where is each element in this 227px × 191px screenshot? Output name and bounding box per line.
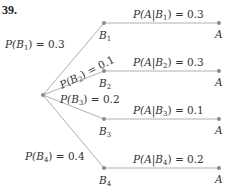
label-b3: B3 [98, 125, 111, 139]
node-b3 [102, 117, 106, 121]
node-a1 [217, 21, 221, 25]
label-b2: B2 [98, 77, 111, 91]
node-a2 [217, 69, 221, 73]
node-a3 [217, 117, 221, 121]
prior-b3: P(B3) = 0.2 [59, 93, 120, 107]
node-b1 [102, 21, 106, 25]
label-b1: B1 [98, 29, 111, 43]
label-a1: A [214, 28, 223, 40]
tree-diagram: 39. B1 B2 B3 B4 A A A A P(B1) = 0.3 P(B2… [0, 0, 227, 191]
label-b4: B4 [98, 174, 112, 188]
root-node [41, 93, 45, 97]
problem-number: 39. [2, 3, 17, 17]
cond-b3: P(A|B3) = 0.1 [132, 104, 204, 118]
label-a3: A [214, 124, 223, 136]
cond-b1: P(A|B1) = 0.3 [132, 8, 204, 22]
node-b4 [102, 166, 106, 170]
prior-b4: P(B4) = 0.4 [24, 150, 85, 164]
label-a4: A [214, 173, 223, 185]
node-a4 [217, 166, 221, 170]
prior-b1: P(B1) = 0.3 [4, 38, 65, 52]
cond-b4: P(A|B4) = 0.2 [132, 153, 204, 167]
cond-b2: P(A|B2) = 0.3 [132, 56, 204, 70]
label-a2: A [214, 76, 223, 88]
